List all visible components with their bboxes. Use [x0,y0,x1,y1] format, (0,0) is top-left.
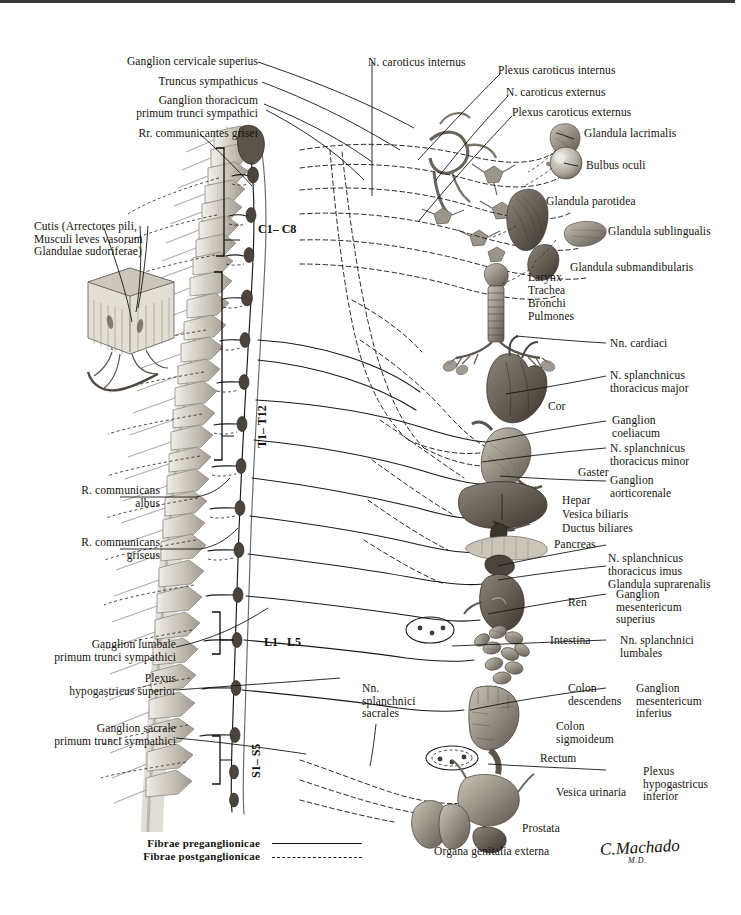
label-ganglion-aorticorenale: Ganglion aorticorenale [610,474,671,499]
label-rectum: Rectum [540,752,576,765]
label-n-splanchnicus-thoracicus-major: N. splanchnicus thoracicus major [610,369,689,394]
organ-external-genitalia [412,800,470,848]
label-ganglion-lumbale-primum: Ganglion lumbale primum trunci sympathic… [6,638,176,663]
label-intestina: Intestina [550,634,591,647]
label-cutis: Cutis (Arrectores pili, Musculi leves va… [34,220,244,258]
label-r-communicans-albus: R. communicans albus [10,484,160,509]
label-bulbus-oculi: Bulbus oculi [586,159,646,172]
label-plexus-caroticus-internus: Plexus caroticus internus [498,64,615,77]
label-glandula-lacrimalis: Glandula lacrimalis [584,127,676,140]
label-n-splanchnicus-thoracicus-imus: N. splanchnicus thoracicus imus [608,552,683,577]
organ-kidney [464,574,524,630]
label-trachea: Trachea [528,284,565,297]
label-ganglion-coeliacum: Ganglion coeliacum [612,414,660,439]
label-plexus-hypogastricus-superior: Plexus hypogastricus superior [6,672,176,697]
label-prostata: Prostata [522,822,560,835]
anatomical-plate: Ganglion cervicale superius Truncus symp… [0,0,741,915]
label-ductus-biliares: Ductus biliares [562,522,633,535]
label-colon-sigmoideum: Colon sigmoideum [556,720,614,745]
label-vesica-biliaris: Vesica biliaris [562,508,628,521]
label-larynx: Larynx [528,271,562,284]
preganglionic-fibres [242,340,502,711]
label-cor: Cor [548,400,566,413]
label-organa-genitalia-externa: Organa genitalia externa [434,845,549,858]
label-plexus-caroticus-externus: Plexus caroticus externus [512,106,631,119]
label-bronchi: Bronchi [528,297,566,310]
label-plexus-hypogastricus-inferior: Plexus hypogastricus inferior [643,765,708,803]
label-hepar: Hepar [562,494,591,507]
level-s1-s5: S1– S5 [249,744,264,778]
level-l1-l5: L1– L5 [264,635,301,650]
organ-colon [469,686,519,774]
artist-signature-credential: M.D. [628,856,646,865]
label-ganglion-mesentericum-inferius: Ganglion mesentericum inferius [636,682,702,720]
label-n-caroticus-externus: N. caroticus externus [506,86,606,99]
legend-preganglionic-label: Fibrae preganglionicae [100,837,260,850]
label-glandula-parotidea: Glandula parotidea [546,195,636,208]
label-vesica-urinaria: Vesica urinaria [556,786,626,799]
organ-parotid-gland [507,189,548,250]
label-gaster: Gaster [578,466,609,479]
level-t1-t12: T1– T12 [255,405,270,448]
label-glandula-sublingualis: Glandula sublingualis [608,225,711,238]
label-ganglion-thoracicum-primum: Ganglion thoracicum primum trunci sympat… [18,94,258,119]
label-colon-descendens: Colon descendens [568,682,621,707]
label-n-splanchnicus-thoracicus-minor: N. splanchnicus thoracicus minor [610,442,689,467]
label-truncus-sympathicus: Truncus sympathicus [18,75,258,88]
level-c1-c8: C1– C8 [258,222,296,237]
organ-heart [487,336,547,423]
label-pulmones: Pulmones [528,310,574,323]
label-nn-splanchnici-sacrales: Nn. splanchnici sacrales [362,682,452,720]
label-ren: Ren [568,596,587,609]
label-ganglion-sacrale-primum: Ganglion sacrale primum trunci sympathic… [6,722,176,747]
label-nn-splanchnici-lumbales: Nn. splanchnici lumbales [620,634,694,659]
organ-sublingual-gland [564,221,606,246]
label-pancreas: Pancreas [554,538,596,551]
label-r-communicans-griseus: R. communicans griseus [10,536,160,561]
label-nn-cardiaci: Nn. cardiaci [610,337,667,350]
label-ganglion-cervicale-superius: Ganglion cervicale superius [18,55,258,68]
legend-preganglionic-swatch [272,843,362,844]
organ-intestines [472,624,531,685]
label-rr-communicantes-grisei: Rr. communicantes grisei [18,127,258,140]
legend-postganglionic-swatch [272,857,362,858]
label-n-caroticus-internus: N. caroticus internus [368,56,466,69]
legend-postganglionic-label: Fibrae postganglionicae [100,850,260,863]
label-glandula-submandibularis: Glandula submandibularis [570,261,693,274]
cutis-block [88,268,174,390]
label-ganglion-mesentericum-superius: Ganglion mesentericum superius [616,588,682,626]
